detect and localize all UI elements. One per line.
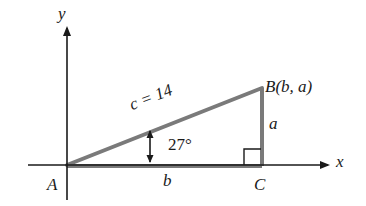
right-angle-marker (244, 149, 261, 165)
vertex-a-label: A (47, 176, 57, 193)
triangle-diagram: y x B(b, a) a c = 14 27° A b C (0, 0, 366, 206)
vertex-b-label: B(b, a) (265, 78, 312, 95)
angle-label: 27° (168, 136, 192, 153)
side-a-label: a (269, 115, 278, 132)
y-axis-label: y (58, 5, 66, 22)
side-b-label: b (163, 172, 172, 189)
axes (28, 28, 328, 200)
x-axis-label: x (336, 153, 344, 170)
vertex-c-label: C (254, 176, 265, 193)
